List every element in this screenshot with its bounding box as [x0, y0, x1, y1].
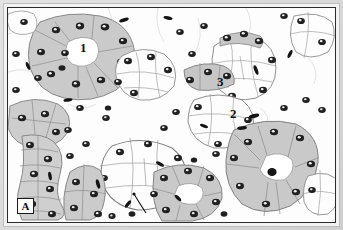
label-4: 4: [146, 219, 153, 223]
serous-acinus-bottom-center: [64, 164, 106, 220]
micrograph-image: 1 3 2 4 A: [7, 7, 336, 223]
serous-acinus-bottom-left-mid: [150, 165, 222, 221]
figure-panel: 1 3 2 4 A: [0, 0, 343, 230]
panel-letter-text: A: [22, 201, 30, 212]
panel-letter-badge: A: [17, 198, 34, 214]
serous-acinus-1: [28, 14, 134, 100]
label-3: 3: [217, 75, 224, 88]
label-1: 1: [80, 41, 87, 54]
label-2: 2: [230, 107, 237, 120]
mucous-acinus-left-top: [8, 11, 37, 35]
serous-demilune-3: [184, 63, 234, 90]
histology-drawing: [8, 8, 335, 222]
mucous-acinus-far-right-top: [290, 12, 335, 58]
